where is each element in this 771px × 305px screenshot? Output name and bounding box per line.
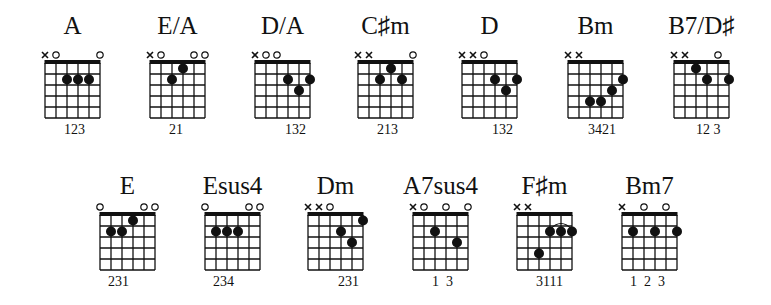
chord-diagram: E/A21 [132,12,222,152]
finger-dot [397,75,407,85]
muted-string-icon [525,204,531,210]
open-string-icon [202,52,208,58]
finger-dot [650,227,660,237]
finger-dot [117,227,127,237]
fretboard-grid [27,12,122,132]
open-string-icon [274,52,280,58]
muted-string-icon [410,204,416,210]
muted-string-icon [565,52,571,58]
open-string-icon [327,204,333,210]
nut [568,60,624,64]
muted-string-icon [619,204,625,210]
muted-string-icon [682,52,688,58]
finger-dot [628,227,638,237]
chord-diagram: A123 [27,12,117,152]
finger-dot [724,75,734,85]
fretboard-grid [82,172,177,292]
finger-dot [490,75,500,85]
finger-dot [305,75,315,85]
open-string-icon [641,204,647,210]
finger-dot [283,75,293,85]
fingering-numbers: 3421 [588,122,616,138]
open-string-icon [246,204,252,210]
finger-dot [62,75,72,85]
nut [517,212,573,216]
chord-diagram: Esus4234 [187,172,277,305]
open-string-icon [202,204,208,210]
chord-diagram: D/A132 [237,12,327,152]
muted-string-icon [42,52,48,58]
open-string-icon [715,52,721,58]
muted-string-icon [671,52,677,58]
open-string-icon [53,52,59,58]
muted-string-icon [252,52,258,58]
chord-diagram: F♯m3111 [499,172,589,305]
finger-dot [430,227,440,237]
fingering-numbers: 12 3 [696,122,721,138]
finger-dot [691,64,701,74]
muted-string-icon [366,52,372,58]
fretboard-grid [132,12,227,132]
finger-dot [386,64,396,74]
finger-dot [618,75,628,85]
fingering-numbers: 231 [338,274,359,290]
fretboard-grid [444,12,539,132]
fretboard-grid [340,12,435,132]
fingering-numbers: 21 [169,122,183,138]
muted-string-icon [147,52,153,58]
muted-string-icon [316,204,322,210]
muted-string-icon [470,52,476,58]
muted-string-icon [576,52,582,58]
finger-dot [452,238,462,248]
finger-dot [545,227,555,237]
fingering-numbers: 1 2 3 [630,274,665,290]
finger-dot [556,227,566,237]
finger-dot [211,227,221,237]
open-string-icon [410,52,416,58]
finger-dot [233,227,243,237]
nut [622,212,678,216]
finger-dot [167,75,177,85]
nut [255,60,311,64]
chord-diagram: A7sus41 3 [395,172,485,305]
chord-diagram: C♯m213 [340,12,430,152]
chord-diagram: D132 [444,12,534,152]
finger-dot [567,227,577,237]
nut [308,212,364,216]
finger-dot [512,75,522,85]
open-string-icon [663,204,669,210]
muted-string-icon [514,204,520,210]
finger-dot [128,216,138,226]
open-string-icon [421,204,427,210]
open-string-icon [158,52,164,58]
open-string-icon [97,52,103,58]
finger-dot [347,238,357,248]
chord-diagram: Bm71 2 3 [604,172,694,305]
nut [150,60,206,64]
open-string-icon [263,52,269,58]
finger-dot [358,216,368,226]
finger-dot [336,227,346,237]
fingering-numbers: 3111 [536,274,563,290]
open-string-icon [141,204,147,210]
nut [100,212,156,216]
finger-dot [84,75,94,85]
finger-dot [178,64,188,74]
finger-dot [222,227,232,237]
fretboard-grid [550,12,645,132]
fretboard-grid [187,172,282,292]
open-string-icon [481,52,487,58]
finger-dot [672,227,682,237]
chord-diagram: B7/D♯12 3 [656,12,746,152]
chord-diagram: Dm231 [290,172,380,305]
finger-dot [294,86,304,96]
chord-diagram: Bm3421 [550,12,640,152]
open-string-icon [152,204,158,210]
nut [358,60,414,64]
open-string-icon [443,204,449,210]
fretboard-grid [656,12,751,132]
chord-diagram: E231 [82,172,172,305]
finger-dot [73,75,83,85]
finger-dot [501,86,511,96]
finger-dot [596,97,606,107]
